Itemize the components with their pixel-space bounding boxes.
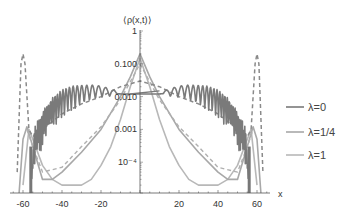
legend-item: λ=1/4 <box>286 126 335 138</box>
y-tick-label: 0.001 <box>114 124 137 134</box>
x-tick-label: -20 <box>94 199 107 209</box>
x-tick-label: 40 <box>213 199 223 209</box>
y-axis-label: ⟨ρ(x,t)⟩ <box>123 15 152 25</box>
y-tick-label: 0.100 <box>114 59 137 69</box>
legend-label: λ=0 <box>308 101 326 113</box>
legend-label: λ=1 <box>308 149 326 161</box>
x-tick-label: -40 <box>55 199 68 209</box>
x-tick-label: 60 <box>252 199 262 209</box>
y-tick-label: 1 <box>132 26 137 36</box>
legend-item: λ=1 <box>286 149 326 161</box>
y-tick-label: 10⁻⁴ <box>118 157 137 167</box>
legend: λ=0λ=1/4λ=1 <box>286 101 335 161</box>
x-tick-label: 20 <box>174 199 184 209</box>
chart: -60-40-20204060 x 10.1000.0100.00110⁻⁴ ⟨… <box>0 0 348 214</box>
x-axis-label: x <box>278 189 283 199</box>
y-axis-ticks: 10.1000.0100.00110⁻⁴ <box>114 26 143 193</box>
x-tick-label: -60 <box>16 199 29 209</box>
y-tick-label: 0.010 <box>114 92 137 102</box>
legend-item: λ=0 <box>286 101 326 113</box>
legend-label: λ=1/4 <box>308 126 335 138</box>
